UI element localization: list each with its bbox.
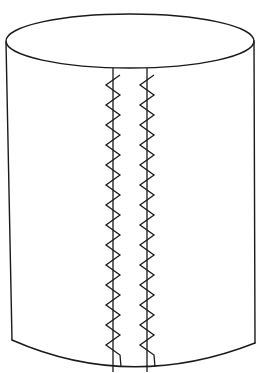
right-seam [140,68,155,372]
cylinder-left-side [6,42,12,340]
cylinder [6,14,255,367]
cylinder-top-ellipse [6,14,254,68]
left-seam [106,68,121,372]
seams [106,68,155,372]
diagram-canvas [0,0,260,373]
cylinder-drawing [0,0,260,373]
cylinder-right-side [254,41,255,343]
cylinder-bottom-curve [12,340,255,367]
